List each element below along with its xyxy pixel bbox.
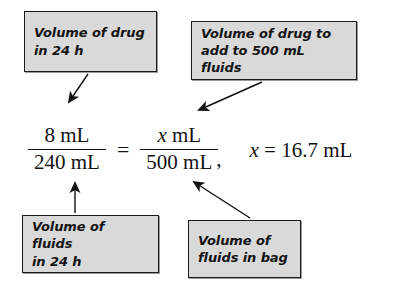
callout-line-2: add to 500 mL fluids [201,43,305,75]
numerator-unit: mL [172,123,201,147]
callout-volume-of-fluids-in-24h: Volume of fluids in 24 h [22,215,159,273]
equation: 8 mL 240 mL = x mL 500 mL , x = 16.7 mL [28,118,408,180]
fraction-right: x mL 500 mL [140,124,218,174]
numerator-right: x mL [151,124,207,149]
callout-text: Volume of drug in 24 h [34,24,145,58]
callout-text: Volume of drug to add to 500 mL fluids [201,25,347,76]
numerator-variable: x [157,123,166,147]
result-variable: x [250,138,259,162]
result-equals: = [264,138,276,162]
callout-line-2: in 24 h [34,43,83,58]
callout-line-1: Volume of fluids [32,219,104,251]
callout-line-1: Volume of [198,233,270,248]
result-unit: mL [323,138,352,162]
equation-comma: , [216,147,221,172]
callout-volume-of-fluids-in-bag: Volume of fluids in bag [188,220,301,278]
callout-text: Volume of fluids in 24 h [32,218,149,269]
result-expression: x = 16.7 mL [224,138,353,163]
callout-line-1: Volume of drug to [201,26,331,41]
callout-volume-of-drug-in-24h: Volume of drug in 24 h [24,11,157,72]
fraction-left: 8 mL 240 mL [28,124,106,174]
equals-sign: = [106,137,140,163]
callout-text: Volume of fluids in bag [198,232,288,266]
numerator-left: 8 mL [39,124,96,149]
arrow-drug-24h [69,74,88,102]
callout-line-2: fluids in bag [198,250,288,265]
callout-volume-of-drug-to-add: Volume of drug to add to 500 mL fluids [191,21,357,80]
arrow-drug-to-add [199,82,262,110]
proportion-diagram: Volume of drug in 24 h Volume of drug to… [0,0,415,295]
denominator-left: 240 mL [28,149,106,175]
callout-line-2: in 24 h [32,254,81,269]
denominator-right: 500 mL [140,149,218,175]
callout-line-1: Volume of drug [34,25,145,40]
arrow-fluids-bag [194,182,250,218]
result-value: 16.7 [281,138,318,162]
